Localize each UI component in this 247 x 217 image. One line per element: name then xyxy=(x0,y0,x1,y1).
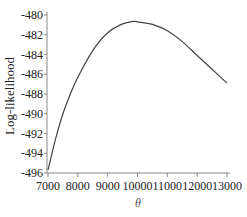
y-tick-label: -492 xyxy=(21,127,43,141)
y-tick-label: -496 xyxy=(21,166,43,180)
x-axis-label: θ xyxy=(135,196,141,210)
y-tick-label: -490 xyxy=(21,107,43,121)
x-tick-label: 11000 xyxy=(153,179,183,193)
y-axis-label: Log-likelihood xyxy=(2,57,17,135)
x-tick-label: 10000 xyxy=(123,179,153,193)
x-axis: 70008000900010000110001200013000 xyxy=(36,173,242,193)
x-tick-label: 8000 xyxy=(66,179,90,193)
x-tick-label: 9000 xyxy=(96,179,120,193)
y-tick-label: -484 xyxy=(21,48,43,62)
x-tick-label: 7000 xyxy=(36,179,60,193)
y-tick-label: -488 xyxy=(21,87,43,101)
log-likelihood-chart: -480-482-484-486-488-490-492-494-496 700… xyxy=(0,0,247,217)
y-tick-label: -480 xyxy=(21,8,43,22)
x-tick-label: 13000 xyxy=(212,179,242,193)
x-tick-label: 12000 xyxy=(182,179,212,193)
y-tick-label: -486 xyxy=(21,67,43,81)
y-tick-label: -482 xyxy=(21,28,43,42)
y-tick-label: -494 xyxy=(21,146,43,160)
likelihood-curve xyxy=(48,21,227,170)
y-axis: -480-482-484-486-488-490-492-494-496 xyxy=(21,8,47,180)
